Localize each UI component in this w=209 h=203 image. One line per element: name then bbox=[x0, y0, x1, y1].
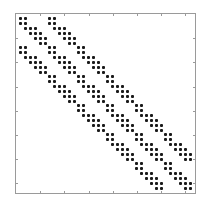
nonzero-marker bbox=[111, 75, 114, 78]
nonzero-marker bbox=[111, 104, 114, 107]
nonzero-marker bbox=[92, 114, 95, 117]
nonzero-marker bbox=[169, 133, 172, 136]
nonzero-marker bbox=[116, 90, 119, 93]
nonzero-marker bbox=[82, 75, 85, 78]
nonzero-marker bbox=[87, 85, 90, 88]
nonzero-marker bbox=[121, 90, 124, 93]
nonzero-marker bbox=[140, 133, 143, 136]
nonzero-marker bbox=[155, 119, 158, 122]
nonzero-marker bbox=[77, 80, 80, 83]
tick-mark bbox=[193, 62, 195, 63]
nonzero-marker bbox=[24, 22, 27, 25]
nonzero-marker bbox=[174, 172, 177, 175]
nonzero-marker bbox=[24, 17, 27, 20]
nonzero-marker bbox=[150, 143, 153, 146]
nonzero-marker bbox=[73, 100, 76, 103]
nonzero-marker bbox=[44, 71, 47, 74]
tick-mark bbox=[193, 111, 195, 112]
nonzero-marker bbox=[48, 46, 51, 49]
nonzero-marker bbox=[102, 71, 105, 74]
nonzero-marker bbox=[145, 143, 148, 146]
nonzero-marker bbox=[150, 119, 153, 122]
tick-mark bbox=[16, 38, 18, 39]
nonzero-marker bbox=[24, 27, 27, 30]
nonzero-marker bbox=[174, 177, 177, 180]
nonzero-marker bbox=[164, 167, 167, 170]
nonzero-marker bbox=[97, 95, 100, 98]
nonzero-marker bbox=[97, 90, 100, 93]
nonzero-marker bbox=[169, 162, 172, 165]
nonzero-marker bbox=[106, 104, 109, 107]
nonzero-marker bbox=[150, 124, 153, 127]
tick-mark bbox=[193, 87, 195, 88]
nonzero-marker bbox=[19, 46, 22, 49]
nonzero-marker bbox=[92, 66, 95, 69]
nonzero-marker bbox=[58, 32, 61, 35]
nonzero-marker bbox=[121, 119, 124, 122]
nonzero-marker bbox=[106, 80, 109, 83]
nonzero-marker bbox=[19, 51, 22, 54]
nonzero-marker bbox=[121, 114, 124, 117]
spy-plot-axes bbox=[15, 13, 196, 194]
nonzero-marker bbox=[111, 109, 114, 112]
nonzero-marker bbox=[102, 66, 105, 69]
nonzero-marker bbox=[34, 37, 37, 40]
nonzero-marker bbox=[155, 148, 158, 151]
nonzero-marker bbox=[44, 42, 47, 45]
nonzero-marker bbox=[155, 158, 158, 161]
nonzero-marker bbox=[184, 187, 187, 190]
nonzero-marker bbox=[126, 129, 129, 132]
nonzero-marker bbox=[68, 71, 71, 74]
nonzero-marker bbox=[106, 75, 109, 78]
nonzero-marker bbox=[121, 143, 124, 146]
nonzero-marker bbox=[150, 177, 153, 180]
nonzero-marker bbox=[77, 46, 80, 49]
nonzero-marker bbox=[150, 182, 153, 185]
nonzero-marker bbox=[34, 56, 37, 59]
nonzero-marker bbox=[102, 129, 105, 132]
nonzero-marker bbox=[131, 153, 134, 156]
nonzero-marker bbox=[53, 75, 56, 78]
nonzero-marker bbox=[140, 143, 143, 146]
nonzero-marker bbox=[19, 22, 22, 25]
nonzero-marker bbox=[97, 119, 100, 122]
nonzero-marker bbox=[48, 75, 51, 78]
nonzero-marker bbox=[135, 109, 138, 112]
nonzero-marker bbox=[97, 66, 100, 69]
nonzero-marker bbox=[53, 85, 56, 88]
nonzero-marker bbox=[169, 167, 172, 170]
tick-mark bbox=[89, 14, 90, 16]
tick-mark bbox=[185, 191, 186, 193]
nonzero-marker bbox=[155, 187, 158, 190]
nonzero-marker bbox=[169, 172, 172, 175]
nonzero-marker bbox=[140, 167, 143, 170]
nonzero-marker bbox=[106, 109, 109, 112]
nonzero-marker bbox=[116, 114, 119, 117]
nonzero-marker bbox=[48, 51, 51, 54]
nonzero-marker bbox=[97, 124, 100, 127]
nonzero-marker bbox=[189, 158, 192, 161]
nonzero-marker bbox=[53, 27, 56, 30]
nonzero-marker bbox=[189, 153, 192, 156]
nonzero-marker bbox=[92, 119, 95, 122]
nonzero-marker bbox=[53, 46, 56, 49]
nonzero-marker bbox=[97, 61, 100, 64]
nonzero-marker bbox=[63, 90, 66, 93]
nonzero-marker bbox=[68, 100, 71, 103]
nonzero-marker bbox=[135, 104, 138, 107]
nonzero-marker bbox=[102, 124, 105, 127]
nonzero-marker bbox=[92, 56, 95, 59]
nonzero-marker bbox=[53, 56, 56, 59]
nonzero-marker bbox=[77, 109, 80, 112]
nonzero-marker bbox=[68, 90, 71, 93]
nonzero-marker bbox=[58, 90, 61, 93]
nonzero-marker bbox=[24, 56, 27, 59]
nonzero-marker bbox=[29, 32, 32, 35]
nonzero-marker bbox=[73, 71, 76, 74]
tick-mark bbox=[16, 111, 18, 112]
nonzero-marker bbox=[63, 27, 66, 30]
nonzero-marker bbox=[160, 158, 163, 161]
nonzero-marker bbox=[145, 148, 148, 151]
tick-mark bbox=[89, 191, 90, 193]
tick-mark bbox=[185, 14, 186, 16]
